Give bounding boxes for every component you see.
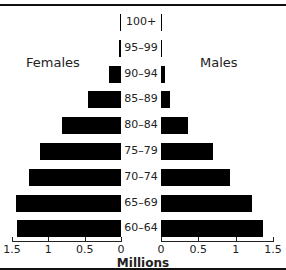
tick-label: 1.5 [264, 243, 282, 256]
male-bar [161, 40, 162, 57]
female-bar [109, 66, 121, 83]
tick [48, 237, 49, 242]
female-bar [17, 220, 121, 237]
age-group-label: 60–64 [121, 221, 161, 234]
age-group-label: 90–94 [121, 67, 161, 80]
female-bar [16, 195, 121, 212]
female-bar [88, 91, 121, 108]
male-bar [161, 143, 213, 160]
male-bar [161, 66, 165, 83]
female-bar [62, 117, 121, 134]
age-group-label: 70–74 [121, 170, 161, 183]
tick-label: 0.5 [76, 243, 94, 256]
tick-label: 1.5 [3, 243, 21, 256]
age-group-label: 65–69 [121, 196, 161, 209]
tick-label: 0.5 [190, 243, 208, 256]
tick-label: 0 [158, 243, 165, 256]
age-group-label: 80–84 [121, 118, 161, 131]
left-axis [12, 241, 122, 242]
male-bar [161, 14, 162, 31]
tick [161, 237, 162, 242]
tick-label: 0 [118, 243, 125, 256]
male-bar [161, 117, 188, 134]
tick-label: 1 [45, 243, 52, 256]
age-group-label: 100+ [121, 15, 161, 28]
tick [85, 237, 86, 242]
tick [236, 237, 237, 242]
male-bar [161, 91, 170, 108]
age-group-label: 85–89 [121, 92, 161, 105]
male-bar [161, 169, 230, 186]
tick [198, 237, 199, 242]
female-bar [29, 169, 121, 186]
right-axis [161, 241, 273, 242]
tick [12, 237, 13, 242]
tick [121, 237, 122, 242]
top-rule [0, 4, 286, 6]
legend-males: Males [200, 55, 238, 70]
population-pyramid-chart: Females Males 100+95–9990–9485–8980–8475… [0, 0, 286, 270]
male-bar [161, 220, 263, 237]
female-bar [40, 143, 121, 160]
age-group-label: 95–99 [121, 41, 161, 54]
male-bar [161, 195, 252, 212]
tick [273, 237, 274, 242]
tick-label: 1 [232, 243, 239, 256]
age-group-label: 75–79 [121, 144, 161, 157]
legend-females: Females [26, 55, 80, 70]
